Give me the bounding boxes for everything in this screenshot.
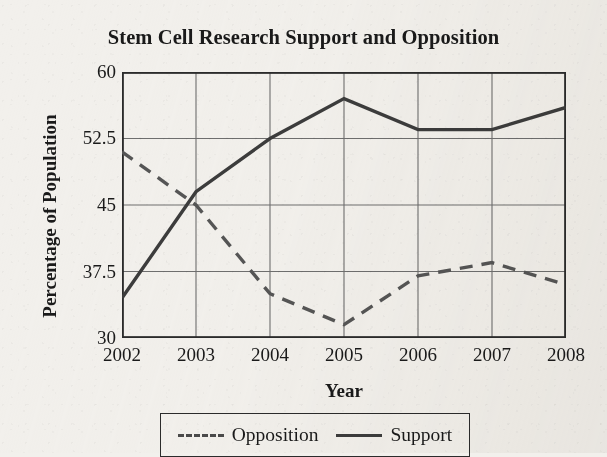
chart-legend: Opposition Support: [160, 413, 470, 457]
x-tick-label-2003: 2003: [177, 344, 215, 366]
x-tick-label-2005: 2005: [325, 344, 363, 366]
chart-title: Stem Cell Research Support and Oppositio…: [0, 26, 607, 49]
y-tick-label-60: 60: [36, 61, 116, 83]
x-tick-label-2002: 2002: [103, 344, 141, 366]
y-tick-label-52.5: 52.5: [36, 127, 116, 149]
x-tick-label-2007: 2007: [473, 344, 511, 366]
y-axis-title: Percentage of Population: [39, 71, 61, 361]
legend-item-opposition: Opposition: [178, 424, 319, 446]
x-axis-title: Year: [122, 380, 566, 402]
legend-label-support: Support: [390, 424, 452, 446]
x-tick-label-2004: 2004: [251, 344, 289, 366]
x-tick-label-2008: 2008: [547, 344, 585, 366]
legend-item-support: Support: [336, 424, 452, 446]
x-tick-label-2006: 2006: [399, 344, 437, 366]
legend-swatch-dashed-icon: [178, 434, 224, 437]
legend-label-opposition: Opposition: [232, 424, 319, 446]
y-tick-label-45: 45: [36, 194, 116, 216]
legend-swatch-solid-icon: [336, 434, 382, 437]
y-tick-label-37.5: 37.5: [36, 261, 116, 283]
plot-area: [122, 72, 566, 338]
